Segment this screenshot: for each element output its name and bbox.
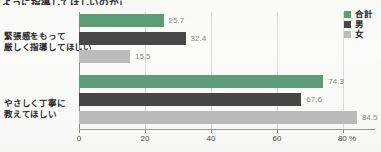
tick-mark-40	[211, 130, 212, 133]
category-label-2-line2: 教えてほしい	[4, 109, 66, 120]
tick-mark-20	[145, 130, 146, 133]
category-label-2-line1: やさしく丁寧に	[4, 98, 66, 109]
bar-female-strict	[79, 50, 130, 63]
bar-value-female-gentle: 84.5	[362, 111, 378, 124]
legend-label-male: 男	[355, 20, 364, 29]
bar-value-female-strict: 15.5	[135, 50, 151, 63]
tick-label-0: 0	[77, 134, 81, 143]
bar-value-total-strict: 25.7	[169, 14, 185, 27]
legend-item-female: 女	[344, 30, 373, 39]
legend-label-total: 合計	[355, 10, 373, 19]
bar-female-gentle	[79, 111, 357, 124]
tick-label-40: 40	[207, 134, 216, 143]
legend-item-total: 合計	[344, 10, 373, 19]
bar-total-strict	[79, 14, 164, 27]
bar-male-gentle	[79, 93, 301, 106]
tick-label-60: 60	[273, 134, 282, 143]
tick-label-20: 20	[141, 134, 150, 143]
legend-swatch-total-icon	[344, 11, 351, 18]
tick-mark-80	[343, 130, 344, 133]
legend-swatch-male-icon	[344, 21, 351, 28]
x-axis-line	[79, 129, 375, 130]
tick-mark-0	[79, 130, 80, 133]
bar-value-male-gentle: 67.6	[306, 93, 322, 106]
legend-swatch-female-icon	[344, 31, 351, 38]
bar-male-strict	[79, 32, 186, 45]
bar-total-gentle	[79, 75, 323, 88]
chart-title: ように指導してほしいのか」	[2, 0, 128, 5]
tick-mark-60	[277, 130, 278, 133]
plot-area: 25.7 32.4 15.5 74.3 67.6 84.5	[79, 12, 375, 130]
chart-legend: 合計 男 女	[344, 10, 373, 39]
tick-label-80: 80 %	[338, 134, 356, 143]
bar-value-total-gentle: 74.3	[328, 75, 344, 88]
legend-item-male: 男	[344, 20, 373, 29]
category-label-2: やさしく丁寧に 教えてほしい	[4, 98, 66, 120]
bar-chart: ように指導してほしいのか」 緊張感をもって 厳しく指導してほしい やさしく丁寧に…	[0, 0, 381, 152]
bar-value-male-strict: 32.4	[191, 32, 207, 45]
legend-label-female: 女	[355, 30, 364, 39]
